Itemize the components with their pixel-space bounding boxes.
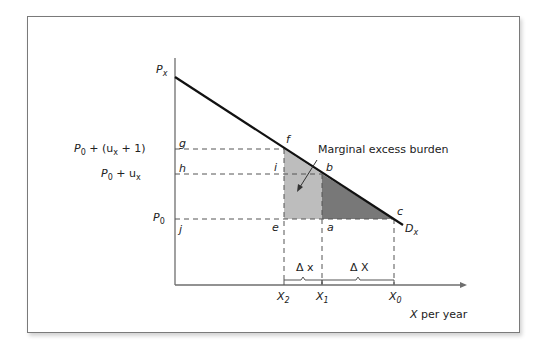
point-h: h <box>179 162 186 175</box>
point-j: j <box>177 223 183 236</box>
point-f: f <box>286 133 292 146</box>
point-b: b <box>326 161 333 174</box>
quantity-x2: X2 <box>276 290 290 305</box>
price-label-p0: P0 <box>153 211 165 226</box>
x-axis-label: X per year <box>409 308 468 321</box>
price-label-tax-plus: P0 + (ux + 1) <box>74 142 145 157</box>
x-axis-arrow-icon <box>460 282 467 288</box>
demand-label: Dx <box>405 222 418 237</box>
quantity-x1: X1 <box>315 290 329 305</box>
delta-x-small-label: Δ x <box>296 261 314 274</box>
quantity-x0: X0 <box>388 290 402 305</box>
y-axis-label: Px <box>156 63 168 78</box>
brace-delta-x-small <box>284 277 322 284</box>
price-label-tax: P0 + ux <box>101 167 141 182</box>
point-e: e <box>272 221 279 234</box>
excess-burden-diagram: Px X per year P0 + (ux + 1) P0 + ux P0 g… <box>0 0 545 356</box>
marginal-excess-burden-label: Marginal excess burden <box>318 143 449 156</box>
point-c: c <box>397 205 403 218</box>
point-a: a <box>327 221 334 234</box>
point-g: g <box>179 137 186 150</box>
point-i: i <box>274 161 277 174</box>
delta-x-large-label: Δ X <box>350 261 369 274</box>
brace-delta-x-large <box>322 277 394 284</box>
